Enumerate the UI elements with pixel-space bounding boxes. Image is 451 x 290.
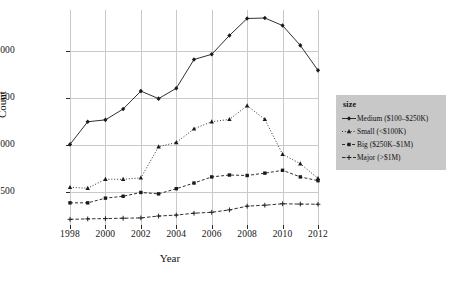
legend-item-label: Major (>$1M)	[357, 153, 401, 162]
legend-item-label: Medium ($100–$250K)	[357, 114, 428, 123]
data-point-marker	[263, 16, 267, 21]
data-point-marker	[175, 187, 178, 190]
y-tick-mark	[66, 145, 70, 146]
x-tick-label: 2006	[202, 230, 222, 240]
y-tick-label: 2000	[0, 46, 15, 56]
data-point-marker	[139, 191, 142, 194]
y-tick-mark	[66, 98, 70, 99]
data-point-marker	[156, 214, 161, 219]
data-point-marker	[263, 171, 266, 174]
data-point-marker	[68, 217, 73, 222]
legend-item-1[interactable]: Small (<$100K)	[341, 125, 442, 138]
data-point-marker	[68, 185, 72, 189]
legend-item-0[interactable]: Medium ($100–$250K)	[341, 112, 442, 125]
legend-panel: size Medium ($100–$250K)Small (<$100K)Bi…	[336, 95, 446, 170]
data-point-marker	[103, 216, 108, 221]
legend-item-label: Small (<$100K)	[357, 127, 406, 136]
series-line	[70, 18, 318, 144]
data-point-marker	[245, 103, 249, 107]
data-point-marker	[156, 96, 160, 101]
series-3	[68, 201, 321, 221]
y-tick-label: 500	[0, 187, 15, 197]
data-point-marker	[316, 202, 321, 207]
series-line	[70, 170, 318, 203]
x-tick-label: 2004	[166, 230, 186, 240]
data-point-marker	[298, 202, 303, 207]
data-point-marker	[280, 152, 284, 156]
data-point-marker	[104, 196, 107, 199]
data-point-marker	[192, 211, 197, 216]
data-point-marker	[298, 161, 302, 165]
data-point-marker	[280, 201, 285, 206]
x-tick-label: 1998	[60, 230, 80, 240]
data-point-marker	[209, 210, 214, 215]
data-point-marker	[245, 174, 248, 177]
data-point-marker	[174, 213, 179, 218]
data-point-marker	[121, 177, 125, 181]
x-tick-label: 2008	[237, 230, 257, 240]
data-point-marker	[299, 175, 302, 178]
diamond-icon	[341, 113, 357, 124]
data-point-marker	[245, 204, 250, 209]
x-tick-label: 2012	[308, 230, 328, 240]
triangle-icon	[341, 126, 357, 137]
data-point-marker	[138, 216, 143, 221]
data-point-marker	[139, 175, 143, 179]
data-point-marker	[281, 169, 284, 172]
data-point-marker	[103, 177, 107, 181]
data-point-marker	[210, 175, 213, 178]
data-point-marker	[227, 208, 232, 213]
chart-screenshot: Count Year 50010001500200019982000200220…	[0, 0, 451, 290]
x-tick-label: 2000	[96, 230, 116, 240]
legend-item-3[interactable]: Major (>$1M)	[341, 151, 442, 164]
data-point-marker	[262, 203, 267, 208]
line-chart-figure: Count Year 50010001500200019982000200220…	[0, 0, 340, 290]
series-layer	[0, 0, 340, 290]
data-point-marker	[86, 186, 90, 190]
data-point-marker	[228, 173, 231, 176]
data-point-marker	[68, 201, 71, 204]
data-point-marker	[192, 181, 195, 184]
data-point-marker	[157, 192, 160, 195]
data-point-marker	[121, 195, 124, 198]
y-tick-mark	[66, 51, 70, 52]
data-point-marker	[227, 117, 231, 121]
data-point-marker	[210, 119, 214, 123]
plus-icon	[341, 152, 357, 163]
legend-item-2[interactable]: Big ($250K–$1M)	[341, 138, 442, 151]
data-point-marker	[121, 216, 126, 221]
data-point-marker	[103, 118, 107, 123]
series-1	[68, 103, 320, 190]
y-tick-mark	[66, 192, 70, 193]
data-point-marker	[263, 117, 267, 121]
y-tick-label: 1500	[0, 93, 15, 103]
series-line	[70, 106, 318, 189]
series-2	[68, 169, 319, 205]
data-point-marker	[86, 201, 89, 204]
x-tick-label: 2010	[273, 230, 293, 240]
legend-item-label: Big ($250K–$1M)	[357, 140, 413, 149]
x-tick-label: 2002	[131, 230, 151, 240]
y-tick-label: 1000	[0, 140, 15, 150]
square-icon	[341, 139, 357, 150]
legend-title: size	[343, 100, 442, 109]
data-point-marker	[316, 179, 319, 182]
data-point-marker	[85, 216, 90, 221]
legend-items: Medium ($100–$250K)Small (<$100K)Big ($2…	[341, 112, 442, 164]
data-point-marker	[174, 140, 178, 144]
